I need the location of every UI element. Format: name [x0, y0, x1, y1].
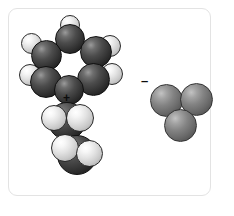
atom-anion — [164, 109, 197, 142]
atom-hydrogen — [66, 104, 94, 132]
atom-hydrogen — [41, 105, 67, 131]
atom-hydrogen — [76, 140, 103, 167]
positive-charge-symbol: + — [63, 92, 70, 104]
figure-canvas: + – Space-filling molecular models of an… — [0, 0, 234, 216]
negative-charge-symbol: – — [141, 74, 148, 87]
figure-caption: Space-filling molecular models of an ion… — [0, 0, 1, 1]
atom-hydrogen — [51, 134, 79, 162]
